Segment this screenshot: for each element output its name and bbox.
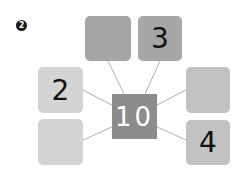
line-top-left bbox=[108, 61, 124, 94]
line-left-bottom bbox=[83, 127, 112, 140]
number-bond-diagram: 2 3 2 4 10 bbox=[0, 0, 244, 174]
box-top-left bbox=[85, 16, 131, 61]
center-total-box: 10 bbox=[112, 94, 157, 139]
box-right-top bbox=[186, 67, 230, 113]
line-left-top bbox=[83, 90, 112, 105]
box-left-top: 2 bbox=[38, 67, 83, 113]
line-top-right bbox=[145, 61, 160, 94]
box-top-right: 3 bbox=[138, 16, 182, 61]
line-right-bottom bbox=[157, 127, 186, 140]
box-left-bottom bbox=[38, 119, 83, 165]
line-right-top bbox=[157, 90, 186, 105]
box-right-bottom: 4 bbox=[186, 120, 230, 165]
